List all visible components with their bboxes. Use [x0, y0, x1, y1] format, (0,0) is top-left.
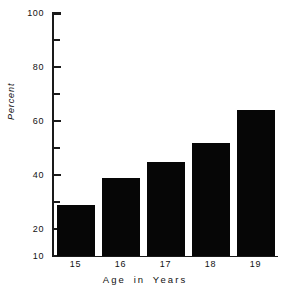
- y-tick-label-80: 80: [33, 62, 44, 72]
- bar-15: [57, 205, 95, 256]
- bar-16: [102, 178, 140, 256]
- x-tick-label-19: 19: [250, 259, 262, 269]
- y-axis-title: Percent: [6, 83, 16, 120]
- x-tick-label-18: 18: [205, 259, 217, 269]
- bar-19: [237, 110, 275, 256]
- bar-17: [147, 162, 185, 257]
- y-tick-label-60: 60: [33, 116, 44, 126]
- x-tick-label-15: 15: [70, 259, 82, 269]
- y-tick-label-40: 40: [33, 170, 44, 180]
- bar-chart-figure: 1008060402010 1516171819 Age in Years Pe…: [0, 0, 290, 297]
- bar-18: [192, 143, 230, 256]
- y-tick-label-100: 100: [27, 8, 44, 18]
- x-axis-title: Age in Years: [0, 274, 290, 285]
- y-tick-label-20: 20: [33, 224, 44, 234]
- x-tick-label-17: 17: [160, 259, 172, 269]
- bar-series: [53, 13, 278, 256]
- y-tick-label-10: 10: [33, 251, 44, 261]
- x-tick-label-16: 16: [115, 259, 127, 269]
